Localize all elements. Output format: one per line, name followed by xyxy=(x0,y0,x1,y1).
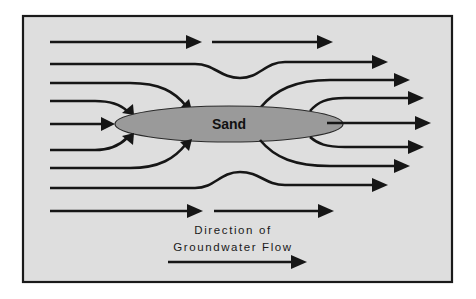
sand-label: Sand xyxy=(212,116,246,132)
legend-line-1: Direction of xyxy=(194,224,271,236)
groundwater-flow-diagram: Sand Direction of Groundwater Flow xyxy=(0,0,476,299)
legend-line-2: Groundwater Flow xyxy=(173,241,293,253)
